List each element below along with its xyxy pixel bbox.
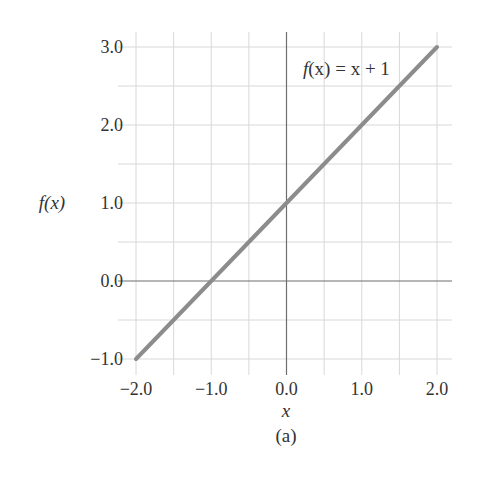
y-tick-label: 3.0 xyxy=(101,37,124,57)
x-tick-labels: −2.0−1.00.01.02.0 xyxy=(120,379,449,399)
chart: −1.00.01.02.03.0 −2.0−1.00.01.02.0 f(x) … xyxy=(0,0,486,486)
y-tick-label: −1.0 xyxy=(90,349,123,369)
figure-caption: (a) xyxy=(275,425,296,447)
y-axis-label: f(x) xyxy=(39,192,65,214)
y-tick-label: 2.0 xyxy=(101,115,124,135)
annotation-rest: (x) = x + 1 xyxy=(308,58,390,80)
x-tick-label: 2.0 xyxy=(426,379,449,399)
x-tick-label: −1.0 xyxy=(195,379,228,399)
x-axis-label: x xyxy=(281,400,291,421)
x-tick-label: 0.0 xyxy=(275,379,298,399)
x-tick-label: 1.0 xyxy=(351,379,374,399)
function-annotation: f(x) = x + 1 xyxy=(303,58,390,80)
y-tick-label: 0.0 xyxy=(101,271,124,291)
x-tick-label: −2.0 xyxy=(120,379,153,399)
y-tick-labels: −1.00.01.02.03.0 xyxy=(90,37,123,369)
y-tick-label: 1.0 xyxy=(101,193,124,213)
